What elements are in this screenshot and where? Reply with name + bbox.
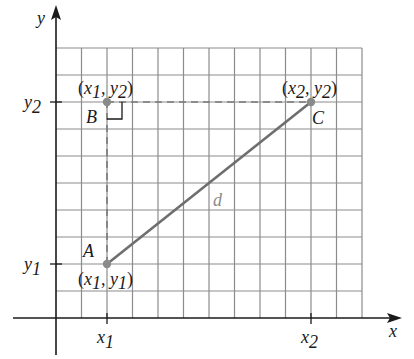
point-label-b: B	[86, 107, 97, 127]
tick-label-y2: y2	[22, 92, 41, 117]
tick-label-y1: y1	[22, 254, 41, 279]
point-label-a: A	[82, 241, 95, 261]
point-b	[103, 98, 111, 106]
axes	[13, 14, 395, 355]
distance-formula-diagram: y x y2 y1 x1 x2 B A C d (x1, y2) (x2, y2…	[0, 0, 414, 359]
tick-label-x1: x1	[96, 327, 114, 352]
point-c	[307, 98, 315, 106]
point-a	[103, 260, 111, 268]
y-axis-label: y	[35, 8, 45, 28]
segment-label-d: d	[213, 190, 223, 210]
point-label-c: C	[312, 108, 325, 128]
coord-label-a: (x1, y1)	[78, 269, 133, 293]
x-axis-label: x	[388, 321, 397, 341]
tick-label-x2: x2	[300, 327, 318, 352]
